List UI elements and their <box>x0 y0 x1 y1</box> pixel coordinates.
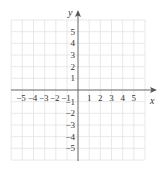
x-tick: 3 <box>109 93 114 103</box>
y-tick: −2 <box>65 108 75 118</box>
y-axis-label: y <box>67 7 73 18</box>
y-axis <box>75 10 81 161</box>
x-tick: 1 <box>87 93 92 103</box>
x-tick: −4 <box>28 93 38 103</box>
y-tick: 5 <box>71 27 76 37</box>
x-tick: 2 <box>98 93 103 103</box>
coordinate-plane: x y −5 −4 −3 −2 −1 1 2 3 4 5 5 4 3 2 1 −… <box>0 0 163 173</box>
y-tick: −5 <box>65 143 75 153</box>
x-tick: 5 <box>132 93 137 103</box>
x-axis-label: x <box>149 95 155 106</box>
x-tick: −5 <box>16 93 26 103</box>
y-tick: −4 <box>65 132 75 142</box>
y-tick: 1 <box>71 73 76 83</box>
x-tick: 4 <box>120 93 125 103</box>
y-tick: −1 <box>65 97 75 107</box>
y-tick: 3 <box>71 50 76 60</box>
x-tick: −2 <box>50 93 60 103</box>
y-tick: 4 <box>71 38 76 48</box>
y-tick: −3 <box>65 120 75 130</box>
y-tick: 2 <box>71 62 76 72</box>
x-tick: −3 <box>39 93 49 103</box>
